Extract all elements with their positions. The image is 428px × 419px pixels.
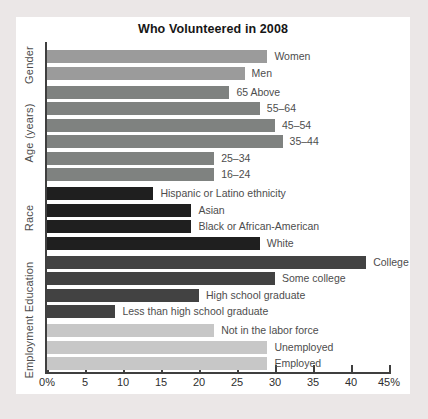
x-axis-tick-label: 45%: [378, 376, 400, 388]
bar-label: High school graduate: [206, 289, 305, 302]
bar-label: 25–34: [221, 152, 250, 165]
bar: [47, 187, 153, 200]
x-axis-tick: [351, 365, 353, 372]
x-axis-tick-label: 25: [231, 376, 243, 388]
x-axis-tick: [389, 365, 391, 372]
bar: [47, 135, 283, 148]
bar-label: Hispanic or Latino ethnicity: [160, 187, 285, 200]
bar: [47, 102, 260, 115]
x-axis-tick-label: 40: [345, 376, 357, 388]
bar-label: Employed: [274, 357, 321, 370]
bar-label: Not in the labor force: [221, 324, 318, 337]
bar-label: Asian: [198, 204, 224, 217]
bar-label: College: [373, 256, 409, 269]
group-label: Employment: [23, 315, 35, 378]
bar: [47, 256, 366, 269]
bar: [47, 305, 115, 318]
bar-label: 16–24: [221, 168, 250, 181]
bar-label: 35–44: [290, 135, 319, 148]
chart-title: Who Volunteered in 2008: [16, 22, 410, 36]
x-axis-tick-label: 35: [307, 376, 319, 388]
bar: [47, 152, 214, 165]
bar-label: Women: [274, 50, 310, 63]
bar: [47, 237, 260, 250]
bar: [47, 204, 191, 217]
bar: [47, 168, 214, 181]
x-axis-line: [45, 372, 391, 374]
bar: [47, 67, 245, 80]
x-axis-tick-label: 20: [193, 376, 205, 388]
x-axis-tick-label: 10: [117, 376, 129, 388]
bar: [47, 86, 229, 99]
bar-label: Unemployed: [274, 341, 333, 354]
group-label: Race: [23, 205, 35, 231]
page-background: { "title": "Who Volunteered in 2008", "c…: [0, 0, 428, 419]
x-axis-tick-label: 0%: [39, 376, 55, 388]
bar: [47, 119, 275, 132]
x-axis-tick-label: 5: [82, 376, 88, 388]
group-label: Gender: [23, 46, 35, 84]
group-label: Education: [23, 261, 35, 312]
chart-panel: Who Volunteered in 2008 0%51015202530354…: [16, 17, 410, 394]
bar: [47, 324, 214, 337]
bar-label: 45–54: [282, 119, 311, 132]
bar: [47, 50, 267, 63]
bar: [47, 289, 199, 302]
bar-label: Black or African-American: [198, 220, 319, 233]
x-axis-tick-label: 30: [269, 376, 281, 388]
group-label: Age (years): [23, 104, 35, 163]
bar-label: Less than high school graduate: [122, 305, 268, 318]
bar: [47, 220, 191, 233]
bar-label: Men: [252, 67, 272, 80]
bar-label: 55–64: [267, 102, 296, 115]
bar: [47, 357, 267, 370]
bar-label: 65 Above: [236, 86, 280, 99]
x-axis-tick-label: 15: [155, 376, 167, 388]
bar: [47, 272, 275, 285]
bar-label: Some college: [282, 272, 346, 285]
bar-label: White: [267, 237, 294, 250]
bar: [47, 341, 267, 354]
